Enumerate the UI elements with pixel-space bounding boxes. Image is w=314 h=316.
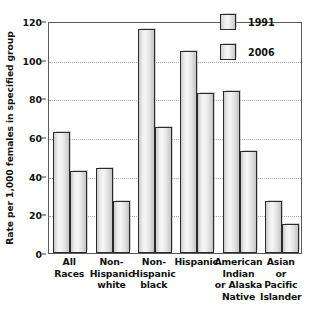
bar-group <box>138 23 172 253</box>
bar <box>96 168 113 253</box>
y-tick-mark-80 <box>42 99 46 100</box>
y-tick-mark-120 <box>42 22 46 23</box>
bar <box>155 127 172 253</box>
bar <box>113 201 130 253</box>
y-tick-label-120: 120 <box>22 17 42 28</box>
bar <box>180 51 197 253</box>
bar <box>265 201 282 253</box>
y-tick-mark-0 <box>42 254 46 255</box>
y-tick-mark-20 <box>42 215 46 216</box>
bar-group <box>53 23 87 253</box>
y-tick-label-60: 60 <box>29 133 42 144</box>
bar <box>53 132 70 253</box>
x-axis-label: AsianorPacificIslander <box>253 256 309 302</box>
chart-legend: 1991 2006 <box>220 10 306 70</box>
legend-label-1991: 1991 <box>248 17 275 28</box>
y-tick-label-80: 80 <box>29 94 42 105</box>
bar <box>240 151 257 253</box>
legend-item-1991: 1991 <box>220 10 306 34</box>
y-tick-label-40: 40 <box>29 171 42 182</box>
bar <box>197 93 214 253</box>
x-axis-labels: AllRacesNon-HispanicwhiteNon-Hispanicbla… <box>48 256 302 314</box>
y-tick-label-100: 100 <box>22 55 42 66</box>
legend-label-2006: 2006 <box>248 47 275 58</box>
bar-group <box>96 23 130 253</box>
bar <box>70 171 87 253</box>
bar-chart: Rate per 1,000 females in specified grou… <box>0 0 314 316</box>
y-tick-mark-40 <box>42 176 46 177</box>
y-tick-label-20: 20 <box>29 210 42 221</box>
y-tick-mark-100 <box>42 60 46 61</box>
bar-group <box>180 23 214 253</box>
legend-swatch-icon-2006 <box>220 44 236 60</box>
bar <box>223 91 240 253</box>
y-tick-mark-60 <box>42 138 46 139</box>
legend-swatch-icon-1991 <box>220 14 236 30</box>
bar <box>282 224 299 253</box>
y-axis-title: Rate per 1,000 females in specified grou… <box>4 31 15 244</box>
y-axis-ticks: 020406080100120 <box>18 22 46 254</box>
legend-item-2006: 2006 <box>220 40 306 64</box>
bar <box>138 29 155 253</box>
y-axis-title-wrapper: Rate per 1,000 females in specified grou… <box>0 22 18 254</box>
